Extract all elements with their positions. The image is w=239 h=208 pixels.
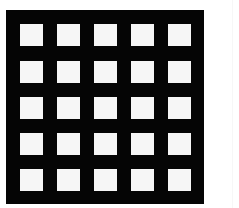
white-square-r4-c4 [131, 133, 154, 155]
white-square-r4-c3 [94, 133, 117, 155]
white-square-r2-c4 [131, 61, 154, 83]
white-square-r3-c2 [57, 97, 80, 119]
white-square-r3-c5 [168, 97, 191, 119]
white-square-r2-c5 [168, 61, 191, 83]
white-square-r5-c2 [57, 169, 80, 191]
white-square-r3-c1 [20, 97, 43, 119]
white-square-r4-c1 [20, 133, 43, 155]
white-square-r2-c2 [57, 61, 80, 83]
white-square-r1-c3 [94, 24, 117, 46]
white-square-r3-c3 [94, 97, 117, 119]
faint-edge-line [232, 0, 233, 208]
hermann-grid-canvas [0, 0, 239, 208]
white-square-r2-c1 [20, 61, 43, 83]
white-square-r5-c4 [131, 169, 154, 191]
white-square-r4-c2 [57, 133, 80, 155]
white-square-r1-c4 [131, 24, 154, 46]
white-square-r1-c2 [57, 24, 80, 46]
white-square-r1-c5 [168, 24, 191, 46]
white-square-r5-c1 [20, 169, 43, 191]
white-square-r3-c4 [131, 97, 154, 119]
white-square-r2-c3 [94, 61, 117, 83]
white-square-r5-c3 [94, 169, 117, 191]
white-square-r5-c5 [168, 169, 191, 191]
white-square-r1-c1 [20, 24, 43, 46]
black-grid-board [6, 10, 204, 204]
white-square-r4-c5 [168, 133, 191, 155]
